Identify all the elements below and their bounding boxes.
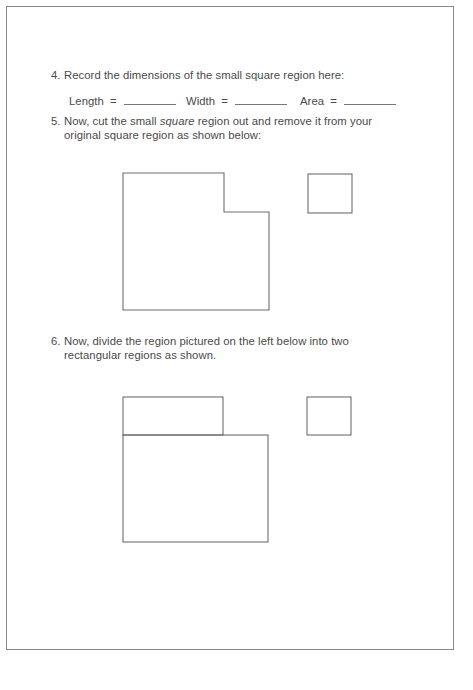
figure-1-l-shape xyxy=(123,173,269,310)
figures-canvas xyxy=(0,0,473,690)
figure-2-top-rectangle xyxy=(123,397,223,435)
figure-2-small-square xyxy=(307,397,351,435)
figure-2-bottom-rectangle xyxy=(123,435,268,542)
figure-1-small-square xyxy=(308,174,352,213)
